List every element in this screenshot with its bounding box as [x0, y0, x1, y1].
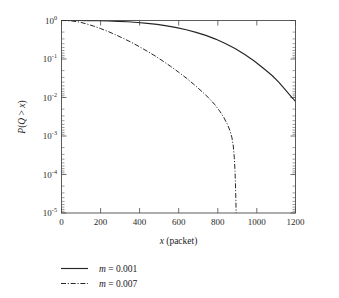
legend-label-0: m = 0.001: [99, 264, 138, 274]
x-axis-title: x (packet): [159, 236, 198, 247]
figure-container: 100 10-1 10-2 10-3 10-4 10-5 0 20: [0, 0, 339, 298]
legend-label-1: m = 0.007: [99, 279, 138, 289]
series-line-m-0.001: [62, 21, 295, 101]
y-axis-title: P(Q > x): [17, 100, 28, 134]
y-axis-ticks: [62, 21, 296, 214]
plot-frame: [62, 21, 296, 214]
y-tick-label-0: 100: [45, 14, 57, 26]
y-tick-label-2: 10-2: [43, 91, 57, 103]
data-curves: [62, 21, 295, 214]
x-tick-label-3: 600: [172, 217, 186, 227]
legend: m = 0.001 m = 0.007: [61, 264, 138, 289]
x-tick-label-6: 1200: [287, 217, 306, 227]
x-tick-label-5: 1000: [248, 217, 267, 227]
x-tick-label-1: 200: [94, 217, 108, 227]
y-tick-label-3: 10-3: [43, 129, 57, 141]
ccdf-queue-length-chart: 100 10-1 10-2 10-3 10-4 10-5 0 20: [0, 0, 339, 298]
series-line-m-0.007: [62, 21, 237, 214]
x-axis-ticks: [62, 21, 296, 214]
y-tick-label-4: 10-4: [43, 168, 57, 180]
x-tick-label-2: 400: [133, 217, 147, 227]
y-tick-label-5: 10-5: [43, 206, 57, 218]
x-tick-label-0: 0: [59, 217, 64, 227]
y-tick-label-1: 10-1: [43, 52, 57, 64]
x-tick-label-4: 800: [211, 217, 225, 227]
y-axis-tick-labels: 100 10-1 10-2 10-3 10-4 10-5: [43, 14, 57, 218]
x-axis-tick-labels: 0 200 400 600 800 1000 1200: [59, 217, 305, 227]
